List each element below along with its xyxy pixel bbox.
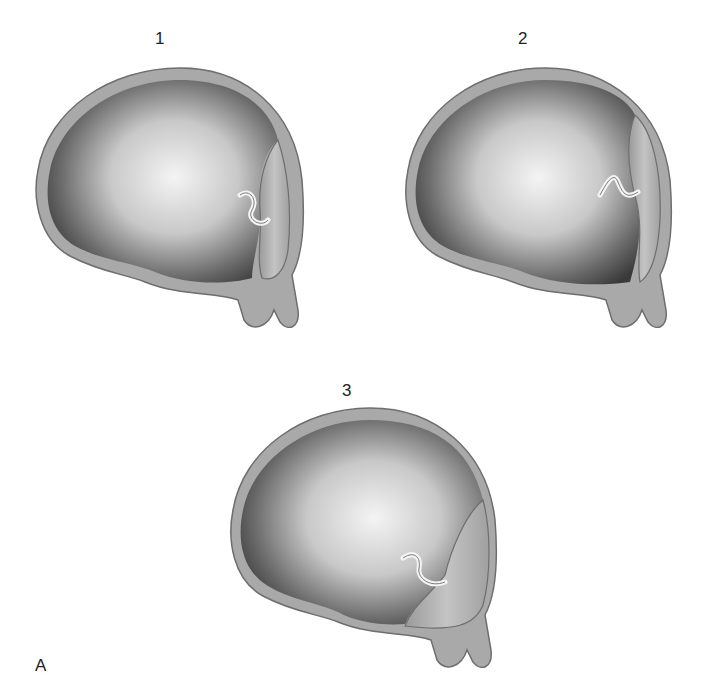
panel-1-label: 1: [155, 30, 164, 47]
panel-2-label: 2: [518, 30, 527, 47]
panel-3-illustration: [225, 400, 515, 690]
sac-diagram-1: [30, 60, 320, 340]
panel-2-illustration: [400, 60, 690, 340]
sac-diagram-3: [225, 400, 515, 690]
panel-3-label: 3: [342, 382, 351, 399]
sac-diagram-2: [400, 60, 690, 340]
figure-panel-letter: A: [35, 657, 46, 674]
panel-1-illustration: [30, 60, 320, 340]
